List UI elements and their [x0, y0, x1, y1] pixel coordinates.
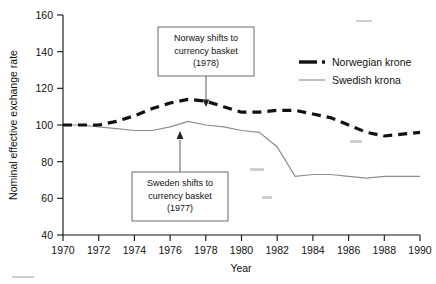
- y-tick-label-80: 80: [41, 156, 53, 168]
- legend-label-swedish-krona: Swedish krona: [332, 74, 401, 86]
- x-axis-title: Year: [230, 262, 252, 274]
- x-tick-label-1984: 1984: [301, 244, 325, 256]
- annotation-sweden-shift: Sweden shifts to currency basket (1977): [132, 131, 228, 221]
- legend-entry-swedish-krona[interactable]: Swedish krona: [299, 74, 401, 86]
- y-tick-label-40: 40: [41, 229, 53, 241]
- sweden-annotation-line2: currency basket: [148, 191, 212, 201]
- y-tick-label-60: 60: [41, 192, 53, 204]
- x-tick-label-1972: 1972: [87, 244, 111, 256]
- x-tick-label-1970: 1970: [51, 244, 75, 256]
- norway-arrow-head: [203, 100, 210, 108]
- y-tick-label-100: 100: [35, 119, 53, 131]
- x-tick-label-1976: 1976: [158, 244, 182, 256]
- norway-annotation-line3: (1978): [193, 58, 219, 68]
- x-tick-label-1988: 1988: [373, 244, 397, 256]
- x-tick-marks: [63, 235, 420, 241]
- norway-annotation-line1: Norway shifts to: [174, 33, 238, 43]
- x-tick-label-1974: 1974: [123, 244, 147, 256]
- chart-legend: Norwegian krone Swedish krona: [299, 56, 412, 86]
- y-tick-label-160: 160: [35, 9, 53, 21]
- sweden-arrow-head: [177, 131, 184, 139]
- annotation-norway-shift: Norway shifts to currency basket (1978): [158, 27, 254, 107]
- legend-entry-norwegian-krone[interactable]: Norwegian krone: [299, 56, 412, 68]
- exchange-rate-chart: 160 140 120 100 80 60 40 Nominal effecti…: [0, 0, 436, 284]
- y-axis: 160 140 120 100 80 60 40 Nominal effecti…: [7, 9, 63, 241]
- sweden-annotation-line3: (1977): [167, 203, 193, 213]
- norway-annotation-line2: currency basket: [174, 46, 238, 56]
- x-tick-label-1978: 1978: [194, 244, 218, 256]
- y-tick-label-120: 120: [35, 82, 53, 94]
- chart-canvas: 160 140 120 100 80 60 40 Nominal effecti…: [0, 0, 436, 284]
- x-tick-label-1980: 1980: [230, 244, 254, 256]
- series-line-swedish-krona: [63, 121, 420, 178]
- x-axis: 1970 1972 1974 1976 1978 1980 1982 1984 …: [51, 235, 432, 274]
- y-axis-title: Nominal effective exchange rate: [7, 50, 19, 200]
- x-tick-label-1982: 1982: [266, 244, 290, 256]
- y-tick-label-140: 140: [35, 46, 53, 58]
- legend-label-norwegian-krone: Norwegian krone: [332, 56, 412, 68]
- sweden-annotation-line1: Sweden shifts to: [147, 178, 213, 188]
- x-tick-label-1990: 1990: [408, 244, 432, 256]
- x-tick-label-1986: 1986: [337, 244, 361, 256]
- y-tick-marks: [57, 15, 63, 235]
